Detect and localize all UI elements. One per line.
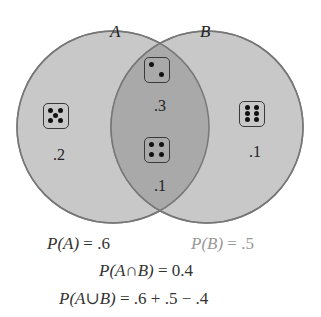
set-b-label: B	[200, 22, 210, 42]
formula-p-b: P(B) = .5	[191, 234, 254, 254]
formula-p-a-intersect-b: P(A∩B) = 0.4	[99, 261, 193, 281]
set-a-label: A	[110, 22, 120, 42]
formula-p-a: P(A) = .6	[47, 234, 110, 254]
a-only-probability: .2	[53, 146, 65, 164]
die-two-icon	[144, 57, 170, 83]
intersection-top-probability: .3	[154, 97, 166, 115]
die-five-icon	[43, 103, 69, 129]
die-six-icon	[239, 101, 265, 127]
b-only-probability: .1	[249, 143, 261, 161]
intersection-bottom-probability: .1	[154, 177, 166, 195]
die-four-icon	[144, 137, 170, 163]
formula-p-a-union-b: P(A∪B) = .6 + .5 − .4	[59, 288, 208, 309]
